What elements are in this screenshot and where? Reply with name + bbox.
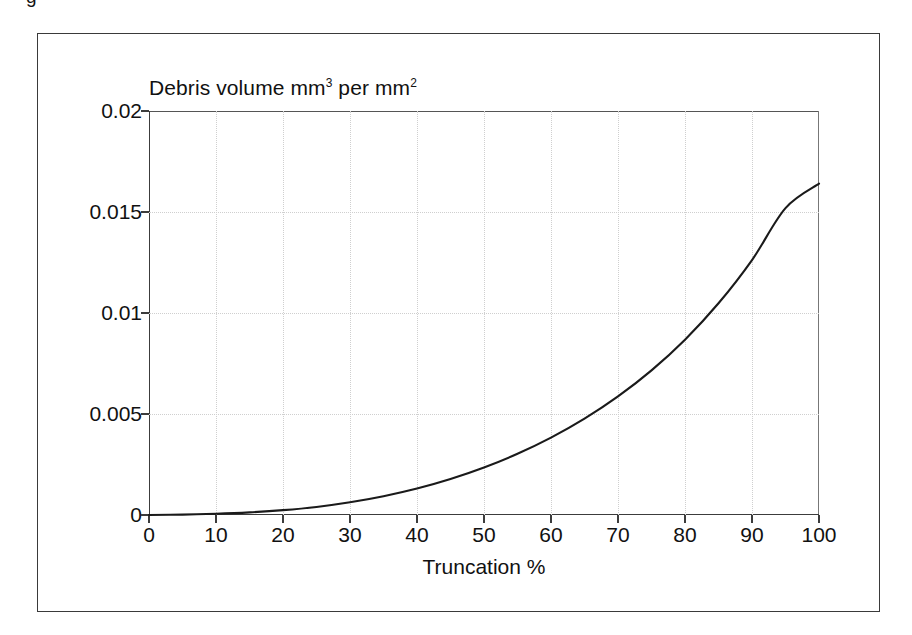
chart-title: Debris volume mm3 per mm2	[149, 76, 417, 100]
x-tick-label: 0	[143, 523, 155, 547]
x-tick-label: 10	[204, 523, 227, 547]
chart-area: Debris volume mm3 per mm2 00.0050.010.01…	[38, 34, 879, 611]
x-tick-label: 30	[338, 523, 361, 547]
x-axis-tick-labels: 0102030405060708090100	[149, 523, 819, 553]
x-tick-mark	[818, 515, 819, 523]
x-tick-label: 60	[539, 523, 562, 547]
x-tick-label: 20	[271, 523, 294, 547]
y-tick-mark	[141, 413, 149, 414]
x-tick-label: 70	[606, 523, 629, 547]
x-tick-mark	[751, 515, 752, 523]
x-tick-label: 50	[472, 523, 495, 547]
chart-title-mid: per mm	[332, 76, 410, 99]
y-tick-mark	[141, 110, 149, 111]
x-tick-mark	[282, 515, 283, 523]
figure-frame: Debris volume mm3 per mm2 00.0050.010.01…	[37, 33, 880, 612]
x-tick-mark	[550, 515, 551, 523]
caption-fragment: g	[26, 0, 37, 8]
data-curve	[149, 111, 819, 515]
y-tick-label: 0.02	[101, 99, 142, 123]
chart-title-sup-square: 2	[410, 76, 417, 90]
x-tick-label: 40	[405, 523, 428, 547]
y-axis-tick-labels: 00.0050.010.0150.02	[38, 111, 142, 515]
x-tick-label: 90	[740, 523, 763, 547]
x-tick-mark	[684, 515, 685, 523]
y-tick-label: 0.005	[89, 402, 142, 426]
x-tick-mark	[483, 515, 484, 523]
x-tick-mark	[349, 515, 350, 523]
x-tick-mark	[617, 515, 618, 523]
x-tick-mark	[148, 515, 149, 523]
y-tick-label: 0.01	[101, 301, 142, 325]
y-tick-mark	[141, 211, 149, 212]
x-tick-label: 100	[801, 523, 836, 547]
x-tick-mark	[416, 515, 417, 523]
x-axis-title: Truncation %	[149, 555, 819, 579]
y-tick-label: 0.015	[89, 200, 142, 224]
y-tick-mark	[141, 312, 149, 313]
chart-title-main: Debris volume mm	[149, 76, 326, 99]
x-tick-label: 80	[673, 523, 696, 547]
x-tick-mark	[215, 515, 216, 523]
plot-area	[149, 111, 819, 515]
